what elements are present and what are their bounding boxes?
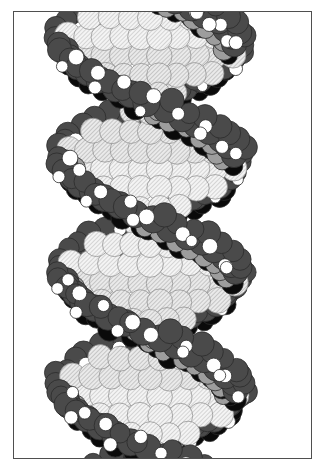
strand-b-hydrogen-sphere [232,391,244,403]
strand-b-hydrogen-sphere [216,140,229,153]
strand-b-hydrogen-sphere [172,107,185,120]
strand-a-hydrogen-sphere [103,438,117,452]
strand-b-carbon-sphere [158,319,183,344]
strand-b-hydrogen-sphere [117,75,131,89]
strand-a-hydrogen-sphere [134,430,147,443]
strand-a-hydrogen-sphere [229,36,243,50]
strand-b-hydrogen-sphere [72,286,87,301]
strand-a-hydrogen-sphere [80,195,92,207]
strand-b-hydrogen-sphere [135,106,146,117]
strand-b-hydrogen-sphere [177,346,189,358]
strand-a-hydrogen-sphere [155,447,167,458]
strand-a-hydrogen-sphere [127,213,140,226]
strand-b-hydrogen-sphere [68,49,84,65]
strand-b-hydrogen-sphere [52,283,64,295]
strand-a-hydrogen-sphere [124,195,137,208]
strand-a-hydrogen-sphere [186,235,197,246]
strand-b-hydrogen-sphere [230,147,242,159]
strand-b-hydrogen-sphere [97,300,109,312]
figure-frame [13,11,312,459]
strand-b-hydrogen-sphere [70,306,82,318]
figure-root: DNA double helix space-filling model [0,0,329,470]
strand-b-hydrogen-sphere [214,369,226,381]
strand-a-hydrogen-sphere [64,411,77,425]
strand-a-hydrogen-sphere [73,163,86,176]
strand-a-hydrogen-sphere [62,150,78,166]
strand-a-hydrogen-sphere [94,185,108,199]
strand-a-hydrogen-sphere [99,417,113,431]
strand-b-hydrogen-sphere [194,127,207,140]
dna-space-filling-model [14,12,311,458]
strand-a-hydrogen-sphere [67,386,79,398]
strand-a-hydrogen-sphere [220,261,232,273]
strand-b-hydrogen-sphere [125,314,141,330]
strand-b-hydrogen-sphere [91,65,106,80]
strand-a-hydrogen-sphere [202,17,216,31]
strand-a-hydrogen-sphere [78,407,90,420]
strand-a-hydrogen-sphere [53,171,65,183]
strand-b-hydrogen-sphere [111,325,124,338]
molecule-atoms-group [44,12,257,458]
strand-a-hydrogen-sphere [139,209,155,225]
strand-a-carbon-sphere [152,203,176,227]
strand-b-hydrogen-sphere [88,81,101,94]
strand-b-hydrogen-sphere [146,89,161,104]
strand-a-hydrogen-sphere [202,238,217,254]
strand-b-hydrogen-sphere [143,327,158,342]
strand-b-hydrogen-sphere [56,61,68,73]
